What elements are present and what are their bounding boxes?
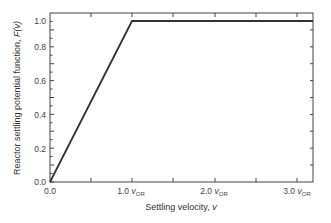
y-tick-label: 1.0 — [34, 16, 46, 26]
chart: 0.0 0.2 0.4 0.6 0.8 1.0 0.0 1.0 vOR 2.0 … — [0, 0, 331, 223]
x-axis-label: Settling velocity, v — [145, 202, 217, 212]
x-tick-label: 3.0 vOR — [283, 186, 311, 197]
y-tick-labels: 0.0 0.2 0.4 0.6 0.8 1.0 — [34, 16, 46, 187]
series-line-F — [50, 21, 313, 182]
plot-frame — [50, 13, 313, 182]
y-tick-label: 0.8 — [34, 42, 46, 52]
x-ticks — [91, 13, 297, 182]
x-tick-labels: 0.0 1.0 vOR 2.0 vOR 3.0 vOR — [44, 186, 311, 197]
x-tick-label: 1.0 vOR — [117, 186, 145, 197]
x-tick-label: 0.0 — [44, 186, 56, 196]
y-axis-label: Reactor settling potential function, F(v… — [12, 21, 22, 175]
y-tick-label: 0.2 — [34, 144, 46, 154]
y-tick-label: 0.4 — [34, 110, 46, 120]
y-ticks — [50, 21, 313, 182]
y-tick-label: 0.6 — [34, 76, 46, 86]
x-tick-label: 2.0 vOR — [200, 186, 228, 197]
